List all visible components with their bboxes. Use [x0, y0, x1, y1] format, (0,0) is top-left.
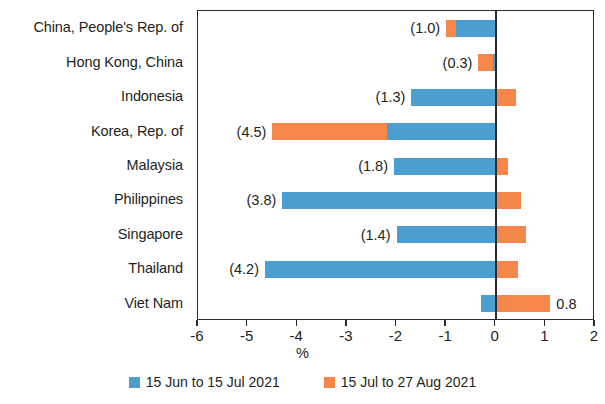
x-tick-mark [494, 320, 495, 326]
bar-segment-period-2 [496, 261, 518, 278]
x-tick-label: -2 [389, 328, 402, 343]
category-label: Singapore [118, 227, 183, 242]
x-tick-mark [345, 320, 346, 326]
x-tick-label: 2 [590, 328, 598, 343]
category-label: Thailand [128, 261, 183, 276]
x-tick-label: 1 [540, 328, 548, 343]
zero-axis-line [495, 11, 497, 319]
bar-segment-period-1 [456, 20, 496, 37]
bar-segment-period-1 [411, 89, 495, 106]
x-tick-mark [444, 320, 445, 326]
bar-value-label: (1.3) [376, 90, 406, 105]
category-axis-labels: China, People's Rep. ofHong Kong, ChinaI… [0, 10, 190, 320]
legend-label: 15 Jun to 15 Jul 2021 [146, 374, 280, 390]
category-label: Indonesia [121, 89, 183, 104]
bar-value-label: (1.8) [358, 159, 388, 174]
table-row [198, 20, 593, 37]
bar-rows: (1.0)(0.3)(1.3)(4.5)(1.8)(3.8)(1.4)(4.2)… [198, 11, 593, 319]
table-row [198, 158, 593, 175]
bar-segment-period-2 [496, 89, 516, 106]
legend-swatch-icon [129, 377, 140, 388]
category-label: Malaysia [127, 158, 183, 173]
bar-value-label: (1.0) [410, 21, 440, 36]
bar-value-label: (4.5) [237, 125, 267, 140]
bar-value-label: (3.8) [247, 193, 277, 208]
x-tick-label: -5 [240, 328, 253, 343]
legend-item[interactable]: 15 Jun to 15 Jul 2021 [129, 374, 280, 390]
bar-segment-period-1 [394, 158, 496, 175]
bar-segment-period-2 [496, 295, 551, 312]
bar-value-label: (1.4) [361, 228, 391, 243]
x-tick-label: -1 [438, 328, 451, 343]
legend-swatch-icon [324, 377, 335, 388]
table-row [198, 54, 593, 71]
bar-segment-period-1 [481, 295, 496, 312]
table-row [198, 295, 593, 312]
x-tick-mark [544, 320, 545, 326]
bar-value-label: (4.2) [229, 262, 259, 277]
x-tick-mark [196, 320, 197, 326]
bar-value-label: 0.8 [556, 297, 576, 312]
category-label: Philippines [114, 192, 183, 207]
x-tick-mark [246, 320, 247, 326]
bar-value-label: (0.3) [443, 56, 473, 71]
bar-segment-period-1 [387, 123, 496, 140]
table-row [198, 226, 593, 243]
bar-chart-figure: China, People's Rep. ofHong Kong, ChinaI… [0, 0, 605, 404]
bar-segment-period-1 [282, 192, 495, 209]
bar-segment-period-1 [265, 261, 496, 278]
x-tick-mark [296, 320, 297, 326]
bar-segment-period-2 [446, 20, 456, 37]
category-label: China, People's Rep. of [33, 20, 183, 35]
bar-segment-period-2 [478, 54, 493, 71]
chart-legend: 15 Jun to 15 Jul 202115 Jul to 27 Aug 20… [0, 374, 605, 390]
bar-segment-period-2 [496, 226, 526, 243]
category-label: Korea, Rep. of [91, 124, 183, 139]
bar-segment-period-2 [496, 192, 521, 209]
category-label: Viet Nam [124, 296, 183, 311]
legend-label: 15 Jul to 27 Aug 2021 [341, 374, 476, 390]
x-tick-label: -4 [290, 328, 303, 343]
legend-item[interactable]: 15 Jul to 27 Aug 2021 [324, 374, 476, 390]
x-axis-title: % [0, 345, 605, 361]
category-label: Hong Kong, China [66, 55, 183, 70]
x-tick-label: 0 [491, 328, 499, 343]
x-tick-label: -6 [190, 328, 203, 343]
bar-segment-period-1 [397, 226, 496, 243]
x-tick-label: -3 [339, 328, 352, 343]
x-tick-mark [395, 320, 396, 326]
bar-segment-period-2 [496, 158, 508, 175]
bar-segment-period-2 [272, 123, 386, 140]
x-tick-mark [593, 320, 594, 326]
plot-area: (1.0)(0.3)(1.3)(4.5)(1.8)(3.8)(1.4)(4.2)… [197, 10, 594, 320]
